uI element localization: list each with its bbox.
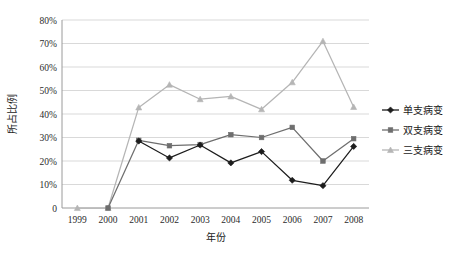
y-tick-label[interactable]: 20% — [40, 157, 58, 167]
data-point[interactable] — [388, 128, 393, 133]
data-point[interactable] — [290, 125, 295, 130]
legend-label[interactable]: 三支病变 — [403, 144, 443, 156]
x-tick-label[interactable]: 2006 — [283, 215, 302, 225]
x-tick-label[interactable]: 2005 — [252, 215, 271, 225]
x-tick-labels[interactable]: 1999200020012002200320042005200620072008 — [68, 215, 364, 225]
legend-label[interactable]: 双支病变 — [403, 124, 443, 136]
data-point[interactable] — [259, 135, 264, 140]
y-tick-label[interactable]: 10% — [40, 180, 58, 190]
y-tick-label[interactable]: 40% — [40, 110, 58, 120]
y-axis-title[interactable]: 所占比例 — [6, 94, 18, 134]
x-tick-label[interactable]: 2001 — [129, 215, 148, 225]
data-point[interactable] — [229, 132, 234, 137]
legend-label[interactable]: 单支病变 — [403, 104, 443, 116]
x-axis-title[interactable]: 年份 — [206, 231, 226, 243]
y-tick-label[interactable]: 60% — [40, 63, 58, 73]
data-point[interactable] — [321, 159, 326, 164]
legend[interactable]: 单支病变双支病变三支病变 — [382, 104, 443, 156]
data-point[interactable] — [387, 107, 393, 113]
x-tick-label[interactable]: 2008 — [344, 215, 363, 225]
y-tick-label[interactable]: 80% — [40, 16, 58, 26]
legend-item-1[interactable]: 单支病变 — [382, 104, 443, 116]
data-point[interactable] — [167, 143, 172, 148]
y-tick-label[interactable]: 50% — [40, 86, 58, 96]
legend-marker[interactable] — [387, 107, 393, 113]
data-point[interactable] — [351, 136, 356, 141]
y-tick-label[interactable]: 70% — [40, 39, 58, 49]
y-tick-label[interactable]: 30% — [40, 133, 58, 143]
legend-item-2[interactable]: 双支病变 — [382, 124, 443, 136]
x-tick-label[interactable]: 1999 — [68, 215, 87, 225]
x-tick-label[interactable]: 2003 — [191, 215, 210, 225]
line-chart: 010%20%30%40%50%60%70%80%199920002001200… — [0, 0, 465, 266]
y-tick-label[interactable]: 0 — [52, 204, 57, 214]
legend-marker[interactable] — [388, 128, 393, 133]
x-tick-label[interactable]: 2007 — [313, 215, 332, 225]
chart-container: 010%20%30%40%50%60%70%80%199920002001200… — [0, 0, 465, 266]
x-tick-label[interactable]: 2000 — [99, 215, 118, 225]
x-tick-label[interactable]: 2002 — [160, 215, 179, 225]
x-tick-label[interactable]: 2004 — [221, 215, 240, 225]
data-point[interactable] — [106, 206, 111, 211]
y-tick-labels[interactable]: 010%20%30%40%50%60%70%80% — [40, 16, 58, 214]
legend-item-3[interactable]: 三支病变 — [382, 144, 443, 156]
